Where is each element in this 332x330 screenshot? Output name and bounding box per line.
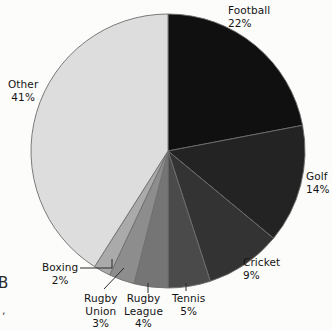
pie-label-rugby-league-line2: League xyxy=(124,305,163,318)
pie-label-football-pct: 22% xyxy=(228,17,270,30)
pie-label-football: Football 22% xyxy=(228,4,270,29)
pie-label-golf-name: Golf xyxy=(306,170,328,182)
pie-label-rugby-league: Rugby League 4% xyxy=(124,292,163,330)
pie-label-rugby-league-line1: Rugby xyxy=(127,292,161,304)
pie-label-boxing-name: Boxing xyxy=(42,261,78,273)
pie-label-boxing-pct: 2% xyxy=(42,274,78,287)
pie-label-tennis-name: Tennis xyxy=(172,292,205,304)
pie-label-tennis-pct: 5% xyxy=(172,305,205,318)
pie-label-football-name: Football xyxy=(228,4,270,16)
pie-label-rugby-union-line2: Union xyxy=(84,305,118,318)
pie-label-other: Other 41% xyxy=(8,78,38,103)
pie-label-other-pct: 41% xyxy=(8,91,38,104)
pie-chart-figure: Football 22% Golf 14% Cricket 9% Tennis … xyxy=(0,0,332,330)
pie-label-cricket-name: Cricket xyxy=(243,256,280,268)
pie-slice-group xyxy=(31,14,305,288)
pie-label-golf: Golf 14% xyxy=(306,170,330,195)
pie-label-rugby-union: Rugby Union 3% xyxy=(84,292,118,330)
pie-label-cricket: Cricket 9% xyxy=(243,256,280,281)
pie-label-cricket-pct: 9% xyxy=(243,269,280,282)
page-edge-clipped-mark: , xyxy=(2,305,6,316)
pie-label-boxing: Boxing 2% xyxy=(42,261,78,286)
pie-label-tennis: Tennis 5% xyxy=(172,292,205,317)
page-edge-clipped-glyph: B xyxy=(0,276,8,291)
pie-label-rugby-union-line1: Rugby xyxy=(84,292,118,304)
pie-label-golf-pct: 14% xyxy=(306,183,330,196)
pie-label-rugby-league-pct: 4% xyxy=(124,317,163,330)
pie-label-other-name: Other xyxy=(8,78,38,90)
pie-label-rugby-union-pct: 3% xyxy=(84,317,118,330)
